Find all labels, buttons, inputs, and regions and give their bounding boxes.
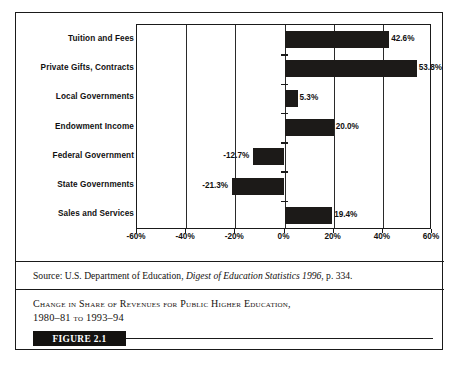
figure-number-row: FIGURE 2.1 [33, 331, 433, 347]
x-tick-label: -40% [176, 232, 195, 241]
bar-value-label: -21.3% [202, 180, 228, 191]
gridline--40 [186, 25, 187, 228]
figure-container: Tuition and FeesPrivate Gifts, Contracts… [15, 12, 443, 350]
category-label: Private Gifts, Contracts [16, 63, 134, 73]
x-tick-label: 60% [423, 232, 439, 241]
category-label: State Governments [16, 180, 134, 190]
bar [285, 119, 334, 136]
x-axis-labels: -60%-40%-20%0%20%40%60% [136, 232, 431, 246]
gridline-20 [334, 25, 335, 228]
figure-number-badge: FIGURE 2.1 [33, 331, 126, 346]
bar-value-label: 53.8% [419, 62, 442, 73]
category-label: Federal Government [16, 151, 134, 161]
chart-plot-area: Tuition and FeesPrivate Gifts, Contracts… [16, 13, 444, 261]
bar-value-label: -12.7% [223, 150, 249, 161]
rule-above-source [16, 261, 444, 262]
category-label: Sales and Services [16, 209, 134, 219]
bar-value-label: 42.6% [391, 33, 414, 44]
caption-line-1: Change in Share of Revenues for Public H… [33, 297, 433, 311]
caption-year-start: 1980–81 [33, 312, 71, 323]
zero-axis-tick [281, 113, 288, 114]
source-title: Digest of Education Statistics 1996 [186, 270, 321, 281]
source-suffix: , p. 334. [321, 270, 352, 281]
bar [285, 90, 298, 107]
bar-value-label: 5.3% [300, 92, 319, 103]
rule-above-caption [16, 289, 444, 290]
figure-badge-rule [126, 338, 433, 339]
source-prefix: Source: U.S. Department of Education, [33, 270, 184, 281]
category-axis-labels: Tuition and FeesPrivate Gifts, Contracts… [16, 24, 134, 229]
x-tick-label: 0% [278, 232, 290, 241]
source-note: Source: U.S. Department of Education, Di… [33, 269, 433, 282]
caption-line-2: 1980–81 to 1993–94 [33, 311, 433, 325]
category-label: Tuition and Fees [16, 34, 134, 44]
plot-frame [136, 24, 431, 229]
category-label: Local Governments [16, 92, 134, 102]
zero-axis-tick [281, 201, 288, 202]
caption-year-end: 1993–94 [86, 312, 124, 323]
bar-value-label: 20.0% [336, 121, 359, 132]
gridline--20 [235, 25, 236, 228]
figure-caption: Change in Share of Revenues for Public H… [33, 297, 433, 324]
caption-connector: to [74, 312, 84, 323]
bar [285, 31, 390, 48]
zero-axis-tick [281, 84, 288, 85]
x-tick-label: 40% [374, 232, 390, 241]
bar [253, 148, 284, 165]
x-tick-label: -20% [225, 232, 244, 241]
bar [285, 207, 333, 224]
category-label: Endowment Income [16, 122, 134, 132]
bar [285, 60, 417, 77]
bar-value-label: 19.4% [334, 209, 357, 220]
x-tick-label: -60% [126, 232, 145, 241]
x-tick-label: 20% [324, 232, 340, 241]
zero-axis-tick [281, 171, 288, 172]
gridline-40 [383, 25, 384, 228]
zero-axis-tick [281, 54, 288, 55]
zero-axis-tick [281, 142, 288, 143]
bar [232, 178, 284, 195]
